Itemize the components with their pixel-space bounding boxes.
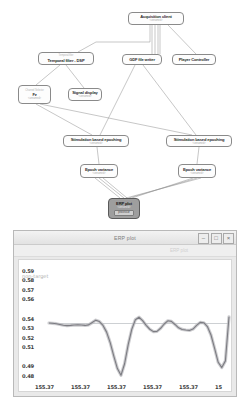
node-type-chip: processor: [114, 210, 133, 215]
y-axis-tick: 0.59: [22, 268, 34, 274]
tab-strip[interactable]: ERP plot: [14, 245, 236, 257]
window-titlebar[interactable]: ERP plot – □ ×: [14, 231, 236, 245]
plot-area[interactable]: non-target 0.590.580.570.560.540.530.520…: [18, 259, 232, 392]
node-subtitle: <unnamed>: [150, 19, 163, 22]
node-title: Player Controller: [179, 57, 209, 62]
erp-variance-band: [49, 317, 229, 375]
connection-lines: [0, 0, 250, 222]
node-signal-display[interactable]: Signal display <unnamed>: [68, 88, 102, 101]
erp-waveform: [19, 260, 233, 395]
x-axis-tick: 155.37: [107, 384, 126, 390]
node-subtitle: <unnamed>: [191, 172, 204, 175]
x-axis-tick: 155.37: [143, 384, 162, 390]
node-channel-selector[interactable]: Channel Selector Fz <unnamed>: [18, 85, 51, 104]
y-axis-tick: 0.52: [22, 335, 34, 341]
node-acquisition-client[interactable]: Acquisition client <unnamed>: [128, 12, 184, 25]
window-title: ERP plot: [114, 235, 136, 241]
node-epoch-variance-right[interactable]: Epoch variance <unnamed>: [178, 164, 216, 178]
node-stimulation-based-epoching-left[interactable]: Stimulation based epoching <unnamed>: [63, 135, 129, 147]
node-gdf-file-writer[interactable]: GDF file writer: [122, 54, 162, 65]
y-axis-tick: 0.53: [22, 325, 34, 331]
y-axis-tick: 0.49: [22, 363, 34, 369]
node-title: Temporal filter - DSP: [47, 58, 84, 63]
node-player-controller[interactable]: Player Controller: [172, 54, 216, 65]
y-axis-tick: 0.48: [22, 373, 34, 379]
node-subtitle: <unnamed>: [93, 172, 106, 175]
y-axis-tick: 0.58: [22, 277, 34, 283]
x-axis-tick: 155.37: [179, 384, 198, 390]
y-axis-tick: 0.54: [22, 316, 34, 322]
tab-erp-plot[interactable]: ERP plot: [170, 248, 188, 253]
y-axis-tick: 0.51: [22, 344, 34, 350]
node-subtitle: <unnamed>: [79, 95, 92, 98]
node-epoch-variance-left[interactable]: Epoch variance <unnamed>: [80, 164, 118, 178]
x-axis-tick: 155.37: [35, 384, 54, 390]
designer-canvas[interactable]: Acquisition client <unnamed> Temporal fi…: [0, 0, 250, 222]
node-subtitle: <unnamed>: [90, 142, 103, 145]
maximize-button[interactable]: □: [211, 233, 222, 244]
x-axis-tick: 155.37: [71, 384, 90, 390]
window-controls: – □ ×: [198, 233, 234, 244]
y-axis-tick: 0.57: [22, 287, 34, 293]
minimize-button[interactable]: –: [198, 233, 209, 244]
node-stimulation-based-epoching-right[interactable]: Stimulation based epoching <unnamed>: [166, 135, 232, 147]
node-title: GDF file writer: [129, 57, 155, 62]
node-erp-plot[interactable]: ERP plot <unnamed> processor: [108, 198, 140, 219]
node-temporal-filter[interactable]: Temporal filter Temporal filter - DSP: [38, 52, 94, 65]
y-axis-tick: 0.56: [22, 296, 34, 302]
close-button[interactable]: ×: [223, 233, 234, 244]
x-axis-tick: 15: [215, 384, 222, 390]
erp-plot-window[interactable]: ERP plot – □ × ERP plot non-target 0.590…: [13, 230, 237, 397]
node-subtitle: <unnamed>: [193, 142, 206, 145]
node-subtitle: <unnamed>: [28, 97, 41, 100]
